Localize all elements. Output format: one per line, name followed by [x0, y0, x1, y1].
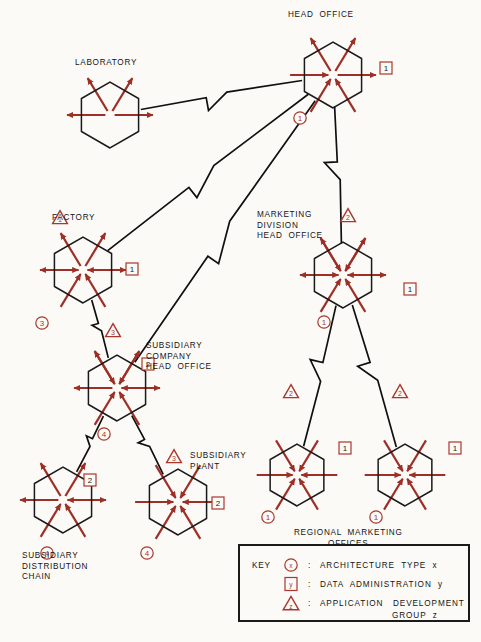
- marker-square-marketing-division-2[interactable]: 1: [404, 283, 416, 295]
- lightning-link-laboratory-to-head-office[interactable]: [141, 81, 302, 111]
- marker-square-subsidiary-plant-1[interactable]: 2: [212, 497, 224, 509]
- flow-arrow-ur-out-5-1: [65, 463, 85, 496]
- flow-arrow-lr-in-7-L1: [299, 479, 318, 510]
- node-label-factory: FACTORY: [52, 213, 95, 224]
- hex-node-marketing-division: [300, 238, 386, 312]
- marker-value-text: 1: [384, 64, 389, 73]
- flow-arrow-ul-out-2-0: [61, 233, 81, 266]
- marker-triangle-subsidiary-company-0[interactable]: 3: [106, 324, 121, 337]
- flow-arrow-lr-in-5-L1: [65, 504, 85, 537]
- node-markers-layer: 1131121132424324211211: [36, 62, 461, 559]
- marker-value-text: 2: [398, 390, 402, 397]
- hex-node-head-office: [290, 38, 376, 112]
- hex-node-regional-marketing-2: [365, 440, 446, 509]
- diagram-canvas: 1131121132424324211211 HEAD OFFICE LABOR…: [0, 0, 481, 642]
- key-legend-box: KEY xyz : ARCHITECTURE TYPE x : DATA ADM…: [238, 544, 470, 622]
- marker-circle-regional-marketing-2-1[interactable]: 1: [370, 511, 382, 523]
- marker-triangle-marketing-division-0[interactable]: 2: [341, 209, 356, 222]
- key-text-application-development-line2: GROUP z: [392, 611, 438, 620]
- marker-value-text: 1: [298, 114, 303, 123]
- marker-circle-marketing-division-1[interactable]: 1: [318, 316, 330, 328]
- node-label-laboratory: LABORATORY: [75, 58, 137, 69]
- marker-circle-subsidiary-company-2[interactable]: 4: [98, 428, 110, 440]
- lightning-link-subsidiary-company-to-subsidiary-distribution[interactable]: [77, 416, 104, 472]
- node-label-subsidiary-company: SUBSIDIARY COMPANY HEAD OFFICE: [146, 341, 212, 373]
- flow-arrow-ur-out-1-1: [112, 78, 132, 111]
- marker-value-text: 1: [266, 513, 271, 522]
- node-label-marketing-division: MARKETING DIVISION HEAD OFFICE: [257, 210, 323, 242]
- marker-square-factory-2[interactable]: 1: [126, 263, 138, 275]
- hex-node-subsidiary-plant: [135, 465, 221, 539]
- flow-arrow-lr-in-6-L1: [180, 506, 200, 539]
- marker-triangle-regional-marketing-1-0[interactable]: 2: [284, 385, 299, 398]
- marker-value-text: 3: [111, 329, 115, 336]
- key-colon-1: :: [308, 580, 310, 589]
- marker-triangle-regional-marketing-2-0[interactable]: 2: [393, 385, 408, 398]
- marker-value-text: 4: [102, 430, 107, 439]
- flow-arrow-ll-in-0-L0: [311, 79, 331, 112]
- flow-arrow-ur-in-8-1: [407, 440, 426, 471]
- flow-arrow-ul-in-8-0: [384, 440, 403, 471]
- marker-value-text: 1: [130, 265, 135, 274]
- lightning-link-subsidiary-company-to-subsidiary-plant[interactable]: [132, 416, 163, 475]
- flow-arrow-ur-out-0-1: [335, 38, 355, 71]
- node-label-subsidiary-distribution: SUBSIDIARY DISTRIBUTION CHAIN: [22, 551, 88, 583]
- marker-value-text: 1: [408, 285, 413, 294]
- marker-square-subsidiary-distribution-0[interactable]: 2: [84, 474, 96, 486]
- flow-arrow-ul-out-5-0: [41, 463, 61, 496]
- marker-circle-head-office-0[interactable]: 1: [294, 112, 306, 124]
- key-text-data-administration: DATA ADMINISTRATION y: [320, 580, 443, 589]
- marker-circle-factory-0[interactable]: 3: [36, 317, 48, 329]
- key-symbol-square: y: [285, 578, 297, 591]
- hex-node-factory: [40, 233, 126, 307]
- marker-value-text: 1: [374, 513, 379, 522]
- flow-arrow-ul-in-4-2: [95, 351, 115, 384]
- marker-value-text: 3: [172, 455, 176, 462]
- marker-square-regional-marketing-1-2[interactable]: 1: [339, 442, 351, 454]
- marker-circle-subsidiary-plant-2[interactable]: 4: [141, 547, 153, 559]
- marker-value-text: 2: [289, 390, 293, 397]
- key-text-architecture: ARCHITECTURE TYPE x: [320, 561, 437, 570]
- flow-arrow-lr-in-3-L1: [345, 279, 365, 312]
- marker-square-head-office-1[interactable]: 1: [380, 62, 392, 74]
- key-text-application-development: APPLICATION DEVELOPMENT: [320, 599, 465, 608]
- node-label-head-office: HEAD OFFICE: [288, 10, 354, 21]
- marker-value-text: 2: [216, 499, 221, 508]
- hex-node-regional-marketing-1: [257, 440, 338, 509]
- marker-square-regional-marketing-2-2[interactable]: 1: [449, 442, 461, 454]
- flow-arrow-lr-in-4-L1: [119, 392, 139, 425]
- hex-node-laboratory: [67, 78, 153, 148]
- flow-arrow-ul-out-1-0: [88, 78, 108, 111]
- flow-arrow-ll-in-8-L0: [384, 479, 403, 510]
- lightning-link-marketing-division-to-regional-marketing-2[interactable]: [352, 305, 396, 447]
- flow-arrow-ur-in-3-3: [345, 238, 365, 271]
- flow-arrow-ur-out-2-1: [85, 233, 105, 266]
- key-symbol-letter: z: [289, 603, 292, 610]
- flow-arrow-lr-in-0-L1: [335, 79, 355, 112]
- node-label-subsidiary-plant: SUBSIDIARY PLANT: [190, 451, 246, 472]
- key-symbol-circle: x: [285, 559, 297, 571]
- flow-arrow-ll-in-3-L0: [321, 279, 341, 312]
- flow-arrow-ll-in-2-L0: [61, 274, 81, 307]
- flow-arrow-ll-in-7-L0: [276, 479, 295, 510]
- lightning-link-head-office-to-marketing-division[interactable]: [324, 106, 341, 243]
- marker-triangle-subsidiary-plant-0[interactable]: 3: [167, 450, 182, 463]
- marker-value-text: 1: [343, 444, 348, 453]
- key-colon-0: :: [308, 561, 310, 570]
- marker-value-text: 3: [40, 319, 45, 328]
- key-symbol-letter: y: [289, 581, 293, 589]
- flow-arrow-lr-in-8-L1: [407, 479, 426, 510]
- key-symbol-triangle: z: [283, 596, 299, 609]
- flow-arrow-lr-in-2-L1: [85, 274, 105, 307]
- flow-arrow-ul-out-0-0: [311, 38, 331, 71]
- lightning-link-factory-to-subsidiary-company[interactable]: [92, 300, 109, 358]
- flow-arrow-ll-in-5-L0: [41, 504, 61, 537]
- flow-arrow-ur-in-7-1: [299, 440, 318, 471]
- marker-value-text: 1: [453, 444, 458, 453]
- marker-circle-regional-marketing-1-1[interactable]: 1: [262, 511, 274, 523]
- flow-arrow-ll-in-6-L0: [156, 506, 176, 539]
- marker-value-text: 4: [145, 549, 150, 558]
- key-colon-2: :: [308, 599, 310, 608]
- key-symbol-letter: x: [289, 562, 293, 569]
- marker-value-text: 2: [346, 214, 350, 221]
